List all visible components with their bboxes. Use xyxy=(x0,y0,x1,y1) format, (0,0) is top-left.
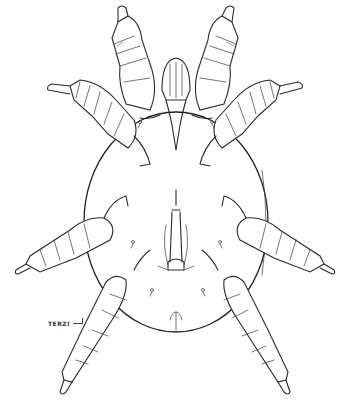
leg-4-right xyxy=(224,276,290,394)
mite-illustration: TERZI xyxy=(0,0,349,404)
leg-4-left xyxy=(60,276,126,394)
mite-drawing xyxy=(0,0,349,404)
artist-signature: TERZI xyxy=(48,320,70,327)
leg-1-left xyxy=(112,6,155,110)
leg-1-right xyxy=(195,6,238,110)
signature-flourish xyxy=(73,318,83,324)
